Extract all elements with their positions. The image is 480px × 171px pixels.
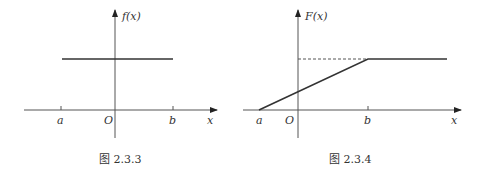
y-axis-label: F(x) bbox=[304, 10, 327, 23]
cdf-line bbox=[259, 59, 447, 110]
origin-label: O bbox=[104, 114, 113, 127]
figure-caption: 图 2.3.3 bbox=[99, 153, 142, 166]
tick-b-label: b bbox=[169, 114, 176, 127]
figure-2-3-3: f(x) a O b x 图 2.3.3 bbox=[24, 10, 217, 166]
figure-canvas: f(x) a O b x 图 2.3.3 F(x) a O b x 图 2.3.… bbox=[0, 0, 480, 171]
x-axis-label: x bbox=[451, 114, 458, 127]
y-axis-label: f(x) bbox=[121, 10, 141, 23]
tick-b-label: b bbox=[364, 114, 371, 127]
figure-caption: 图 2.3.4 bbox=[329, 153, 372, 166]
x-axis-label: x bbox=[207, 114, 214, 127]
tick-a-label: a bbox=[256, 114, 263, 127]
tick-a-label: a bbox=[57, 114, 64, 127]
origin-label: O bbox=[285, 114, 294, 127]
figure-2-3-4: F(x) a O b x 图 2.3.4 bbox=[243, 10, 461, 166]
